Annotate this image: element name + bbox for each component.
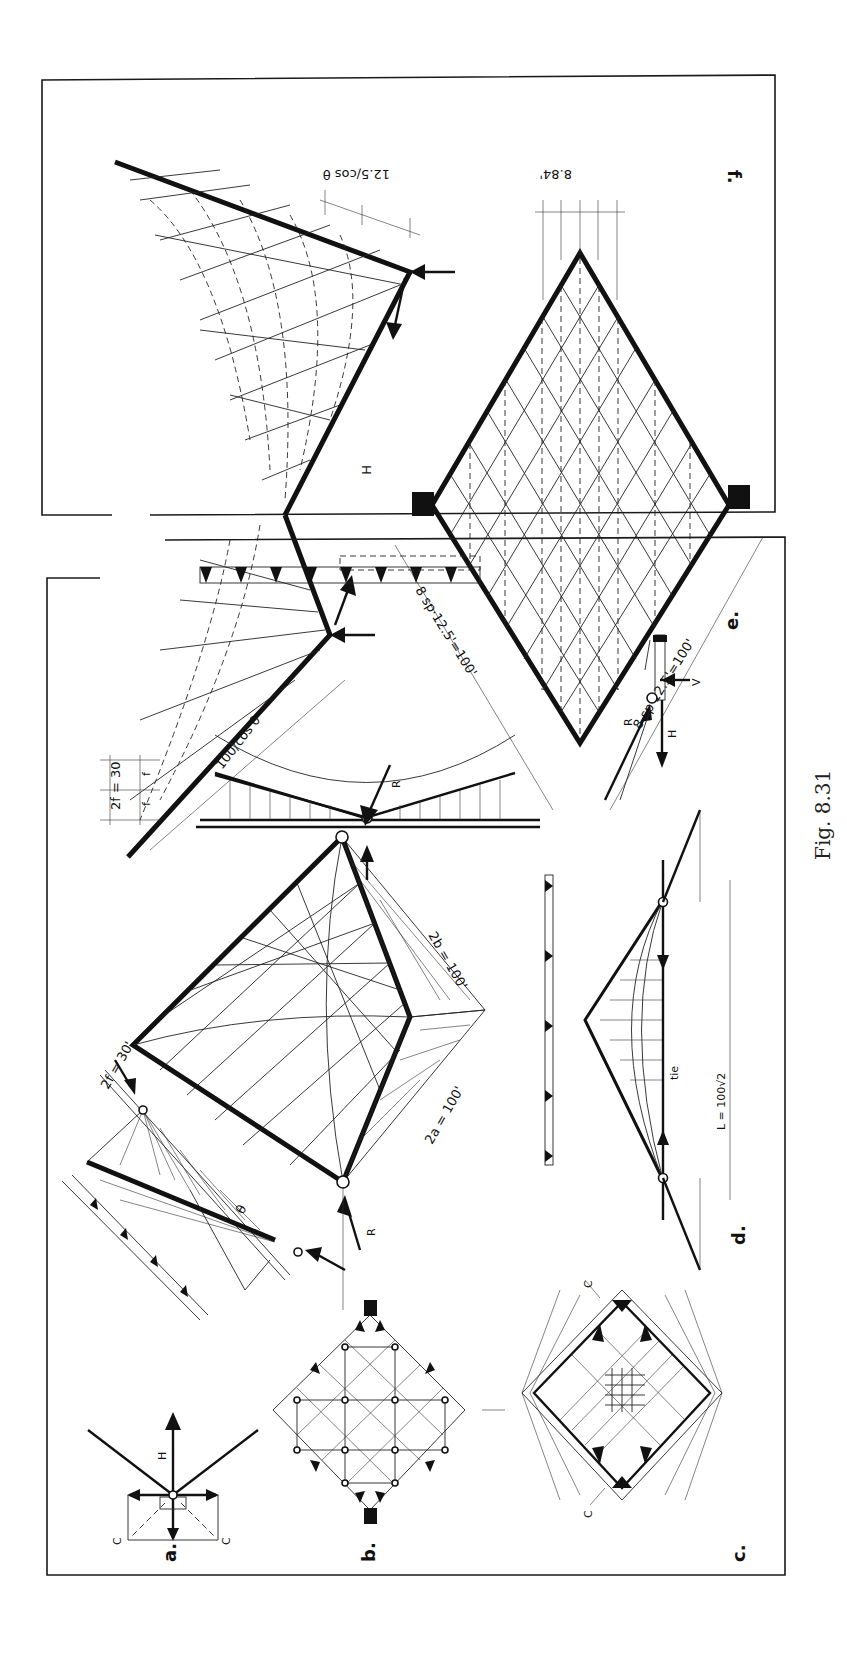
panel-c-drawing <box>522 1280 722 1505</box>
label-V: V <box>690 678 703 686</box>
label-12-5-cos-theta: 12.5/cos θ <box>323 167 390 182</box>
panel-d-drawing <box>545 810 730 1270</box>
label-R-bottom: R <box>365 1228 378 1236</box>
plan-diamond-drawing <box>395 200 763 810</box>
label-R-e: R <box>622 718 635 726</box>
label-8-84: 8.84' <box>539 167 572 182</box>
panel-label-b: b. <box>358 1542 379 1562</box>
label-L-100-root2: L = 100√2 <box>715 1073 728 1130</box>
label-f-bottom: f <box>140 801 153 806</box>
main-hypar-drawing <box>133 765 485 1310</box>
label-f-top: f <box>140 771 153 776</box>
label-2a-100: 2a = 100' <box>422 1084 467 1147</box>
label-Ch-right: C <box>220 1537 233 1545</box>
panel-a-drawing <box>88 1412 258 1541</box>
panel-label-d: d. <box>728 1225 749 1245</box>
load-strip-top <box>200 556 480 583</box>
label-R-top: R <box>390 780 403 788</box>
label-Ch-left: C <box>111 1537 124 1545</box>
label-C-bottom: C <box>582 1510 595 1518</box>
label-2b-100: 2b = 100' <box>425 929 470 992</box>
panel-f: 100/cos θ 12.5/cos θ H <box>42 75 775 857</box>
panel-label-a: a. <box>159 1543 180 1562</box>
panel-label-c: c. <box>728 1544 749 1562</box>
panel-group-a-to-e: 2f = 30 f f <box>47 537 785 1575</box>
hypar-saddle-drawing <box>115 162 455 857</box>
section-drawing <box>62 1060 345 1320</box>
label-2f-30-elev: 2f = 30 <box>108 761 123 810</box>
label-H-a: H <box>156 1452 169 1460</box>
figure-8-31: 100/cos θ 12.5/cos θ H <box>0 0 847 1671</box>
panel-label-f: f. <box>724 170 745 184</box>
panel-label-e: e. <box>721 611 742 630</box>
label-8sp-left: 8 sp·12.5'=100' <box>412 584 479 680</box>
label-H-e: H <box>666 730 679 738</box>
label-H-f: H <box>359 465 374 475</box>
panel-b-drawing <box>273 1300 505 1524</box>
label-tie: tie <box>668 1066 681 1080</box>
label-C-top: C <box>582 1280 595 1288</box>
figure-caption: Fig. 8.31 <box>811 770 835 860</box>
